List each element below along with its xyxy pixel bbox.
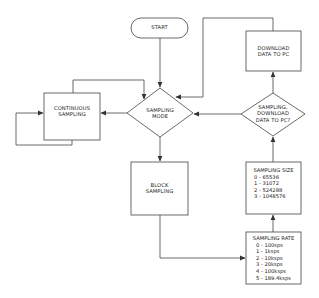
- block-sampling-line2: SAMPLING: [131, 188, 188, 194]
- download-decision-label: SAMPLING, DOWNLOAD DATA TO PC?: [243, 104, 303, 123]
- start-text: START: [151, 24, 168, 30]
- sampling-rate-title: SAMPLING RATE: [246, 235, 301, 242]
- sampling-rate-option: 5 - 189.4ksps: [246, 275, 301, 282]
- edge-block-to-rate: [160, 215, 245, 258]
- start-label: START: [131, 24, 188, 30]
- sampling-size-content: SAMPLING SIZE 0 - 65536 1 - 31072 2 - 52…: [246, 167, 301, 200]
- continuous-sampling-label: CONTINUOUS SAMPLING: [44, 105, 100, 118]
- sampling-rate-option: 2 - 10ksps: [246, 255, 301, 262]
- continuous-sampling-line2: SAMPLING: [44, 111, 100, 117]
- sampling-rate-option: 1 - 1ksps: [246, 248, 301, 255]
- sampling-rate-option: 0 - 100sps: [246, 242, 301, 249]
- download-data-line2: DATA TO PC: [246, 51, 301, 57]
- edge-continuous-to-mode: [73, 80, 144, 99]
- sampling-size-option: 3 - 1048576: [246, 193, 301, 200]
- sampling-rate-option: 3 - 20ksps: [246, 261, 301, 268]
- sampling-mode-line2: MODE: [130, 113, 190, 119]
- block-sampling-label: BLOCK SAMPLING: [131, 182, 188, 195]
- sampling-rate-option: 4 - 100ksps: [246, 268, 301, 275]
- sampling-mode-label: SAMPLING MODE: [130, 107, 190, 120]
- download-decision-line3: DATA TO PC?: [243, 117, 303, 123]
- download-data-label: DOWNLOAD DATA TO PC: [246, 45, 301, 58]
- sampling-size-option: 1 - 31072: [246, 180, 301, 187]
- sampling-size-option: 2 - 524288: [246, 187, 301, 194]
- sampling-size-option: 0 - 65536: [246, 174, 301, 181]
- sampling-size-title: SAMPLING SIZE: [246, 167, 301, 174]
- sampling-rate-content: SAMPLING RATE 0 - 100sps 1 - 1ksps 2 - 1…: [246, 235, 301, 281]
